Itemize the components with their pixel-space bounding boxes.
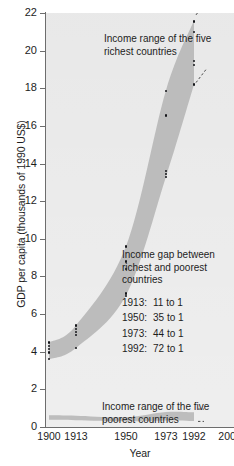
y-axis-tick bbox=[40, 239, 45, 240]
y-axis-tick bbox=[40, 352, 45, 353]
y-axis-tick-label: 14 bbox=[7, 157, 37, 169]
gap-ratio-value: 35 to 1 bbox=[153, 312, 184, 323]
gap-ratio-row: 1950:35 to 1 bbox=[122, 310, 234, 325]
plot-area: Income range of the five richest countri… bbox=[46, 13, 234, 427]
annotation-rich-band: Income range of the five richest countri… bbox=[104, 33, 234, 58]
y-axis-tick-label: 18 bbox=[7, 81, 37, 93]
y-axis-tick bbox=[40, 88, 45, 89]
y-axis-tick-label: 22 bbox=[7, 6, 37, 18]
data-point bbox=[165, 114, 167, 116]
y-axis-tick-label: 2 bbox=[7, 382, 37, 394]
data-point bbox=[48, 341, 50, 343]
y-axis-tick bbox=[40, 51, 45, 52]
y-axis-tick bbox=[40, 427, 45, 428]
gap-ratio-row: 1913:11 to 1 bbox=[122, 295, 234, 310]
x-axis-tick-label: 1913 bbox=[56, 430, 96, 442]
x-axis-title: Year bbox=[46, 447, 234, 459]
gap-ratio-row: 1973:44 to 1 bbox=[122, 326, 234, 341]
y-axis-tick bbox=[40, 314, 45, 315]
y-axis-tick-label: 6 bbox=[7, 307, 37, 319]
y-axis-tick-label: 20 bbox=[7, 44, 37, 56]
y-axis-tick-label: 16 bbox=[7, 119, 37, 131]
y-axis-tick bbox=[40, 389, 45, 390]
gap-ratio-value: 44 to 1 bbox=[153, 328, 184, 339]
data-point bbox=[193, 20, 195, 22]
annotation-poor-band: Income range of the five poorest countri… bbox=[102, 401, 234, 426]
data-point bbox=[193, 83, 195, 85]
x-axis-tick-label: 2000 bbox=[210, 430, 234, 442]
gap-ratio-year: 1992: bbox=[122, 341, 153, 356]
gap-ratio-year: 1950: bbox=[122, 310, 153, 325]
data-point bbox=[75, 324, 77, 326]
y-axis-tick bbox=[40, 201, 45, 202]
data-point bbox=[125, 245, 127, 247]
gap-ratio-row: 1992:72 to 1 bbox=[122, 341, 234, 356]
gap-ratio-year: 1973: bbox=[122, 326, 153, 341]
annotation-gap-rows: 1913:11 to 11950:35 to 11973:44 to 11992… bbox=[122, 295, 234, 357]
y-axis-tick-label: 8 bbox=[7, 269, 37, 281]
y-axis-tick bbox=[40, 13, 45, 14]
gap-ratio-year: 1913: bbox=[122, 295, 153, 310]
y-axis-tick-label: 12 bbox=[7, 194, 37, 206]
x-axis-tick-label: 1950 bbox=[106, 430, 146, 442]
income-bands bbox=[46, 13, 234, 427]
y-axis-tick bbox=[40, 276, 45, 277]
data-point bbox=[165, 176, 167, 178]
annotation-gap-heading: Income gap between richest and poorest c… bbox=[122, 249, 234, 287]
gap-ratio-value: 11 to 1 bbox=[153, 297, 183, 308]
projection-dashes bbox=[196, 13, 206, 421]
chart-figure: GDP per capita (thousands of 1990 US$) Y… bbox=[0, 0, 234, 466]
y-axis-tick bbox=[40, 164, 45, 165]
x-axis-tick-label: 1992 bbox=[174, 430, 214, 442]
y-axis-tick-label: 4 bbox=[7, 345, 37, 357]
y-axis-tick-label: 10 bbox=[7, 232, 37, 244]
data-point bbox=[48, 351, 50, 353]
gap-ratio-value: 72 to 1 bbox=[153, 343, 184, 354]
y-axis-tick bbox=[40, 126, 45, 127]
x-axis-line bbox=[45, 427, 234, 428]
